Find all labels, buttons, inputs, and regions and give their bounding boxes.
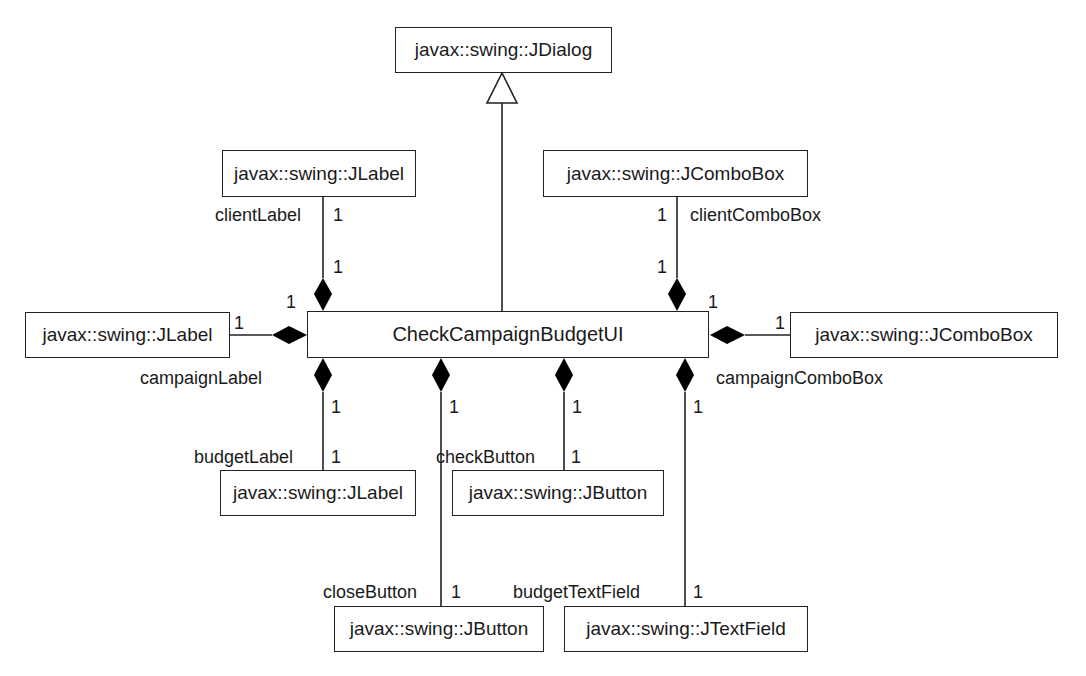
composition-diamond-icon (272, 326, 307, 344)
role-budget-label: budgetLabel (194, 448, 293, 466)
multiplicity: 1 (449, 398, 459, 416)
multiplicity: 1 (708, 293, 718, 311)
generalization-triangle-icon (487, 73, 517, 103)
role-campaign-combobox: campaignComboBox (716, 369, 883, 387)
composition-diamond-icon (314, 358, 332, 392)
role-client-label: clientLabel (215, 206, 301, 224)
role-campaign-label: campaignLabel (140, 369, 262, 387)
role-close-button: closeButton (323, 583, 417, 601)
role-check-button: checkButton (436, 448, 535, 466)
multiplicity: 1 (775, 314, 785, 332)
multiplicity: 1 (286, 293, 296, 311)
class-main-checkcampaignbudgetui: CheckCampaignBudgetUI (307, 311, 709, 358)
class-campaign-jlabel: javax::swing::JLabel (25, 312, 230, 358)
class-budget-jtextfield: javax::swing::JTextField (564, 606, 808, 652)
role-budget-textfield: budgetTextField (513, 583, 640, 601)
role-client-combobox: clientComboBox (690, 206, 821, 224)
multiplicity: 1 (331, 448, 341, 466)
class-campaign-jcombobox: javax::swing::JComboBox (790, 312, 1058, 358)
composition-diamond-icon (555, 358, 573, 392)
class-budget-jlabel: javax::swing::JLabel (220, 470, 416, 516)
multiplicity: 1 (451, 583, 461, 601)
multiplicity: 1 (333, 206, 343, 224)
multiplicity: 1 (572, 398, 582, 416)
multiplicity: 1 (331, 398, 341, 416)
multiplicity: 1 (693, 398, 703, 416)
class-check-jbutton: javax::swing::JButton (452, 470, 664, 516)
multiplicity: 1 (234, 314, 244, 332)
class-close-jbutton: javax::swing::JButton (334, 606, 544, 652)
class-client-jlabel: javax::swing::JLabel (222, 150, 416, 197)
composition-diamond-icon (432, 358, 450, 392)
composition-diamond-icon (314, 278, 332, 311)
class-jdialog: javax::swing::JDialog (395, 27, 612, 73)
multiplicity: 1 (657, 258, 667, 276)
class-client-jcombobox: javax::swing::JComboBox (543, 150, 808, 197)
multiplicity: 1 (657, 206, 667, 224)
composition-diamond-icon (710, 326, 745, 344)
multiplicity: 1 (571, 448, 581, 466)
multiplicity: 1 (693, 583, 703, 601)
composition-diamond-icon (676, 358, 694, 392)
multiplicity: 1 (333, 258, 343, 276)
composition-diamond-icon (668, 278, 686, 311)
